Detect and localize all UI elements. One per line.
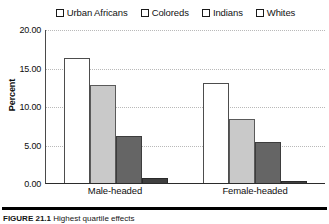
bar-group-male-headed xyxy=(46,30,186,183)
bar-coloreds-female-headed xyxy=(229,119,255,183)
bar-series-container xyxy=(46,30,325,183)
bar-whites-male-headed xyxy=(142,178,168,183)
bar-group-female-headed xyxy=(186,30,326,183)
legend-label-coloreds: Coloreds xyxy=(152,8,189,18)
x-axis-tick-labels: Male-headedFemale-headed xyxy=(45,185,325,199)
y-axis-tick-labels: 0.005.0010.0015.0020.00 xyxy=(0,22,44,184)
legend-swatch-indians xyxy=(202,9,210,17)
bar-indians-female-headed xyxy=(255,142,281,183)
bar-chart: Percent 0.005.0010.0015.0020.00 Male-hea… xyxy=(0,22,329,202)
bar-indians-male-headed xyxy=(116,136,142,183)
legend-swatch-coloreds xyxy=(141,9,149,17)
plot-area xyxy=(45,30,325,184)
legend-label-whites: Whites xyxy=(267,8,295,18)
bar-coloreds-male-headed xyxy=(90,85,116,183)
legend-item-whites: Whites xyxy=(256,8,295,18)
y-tick-0.00: 0.00 xyxy=(24,180,41,189)
legend-swatch-whites xyxy=(256,9,264,17)
bar-whites-female-headed xyxy=(281,181,307,183)
legend-item-urban-africans: Urban Africans xyxy=(56,8,128,18)
x-tick-female-headed: Female-headed xyxy=(185,185,325,199)
bar-urban-africans-male-headed xyxy=(64,58,90,184)
figure-caption-text: Highest quartile effects xyxy=(53,214,134,223)
legend-item-coloreds: Coloreds xyxy=(141,8,189,18)
figure-caption-label: FIGURE 21.1 xyxy=(3,214,51,223)
y-tick-20.00: 20.00 xyxy=(19,26,41,35)
chart-legend: Urban Africans Coloreds Indians Whites xyxy=(0,5,329,21)
y-tick-5.00: 5.00 xyxy=(24,141,41,150)
caption-divider xyxy=(2,207,327,210)
legend-label-urban-africans: Urban Africans xyxy=(67,8,128,18)
x-tick-male-headed: Male-headed xyxy=(45,185,185,199)
legend-swatch-urban-africans xyxy=(56,9,64,17)
figure-caption: FIGURE 21.1 Highest quartile effects xyxy=(3,214,323,223)
legend-item-indians: Indians xyxy=(202,8,243,18)
bar-urban-africans-female-headed xyxy=(203,83,229,183)
legend-label-indians: Indians xyxy=(213,8,243,18)
y-tick-15.00: 15.00 xyxy=(19,64,41,73)
y-tick-10.00: 10.00 xyxy=(19,103,41,112)
